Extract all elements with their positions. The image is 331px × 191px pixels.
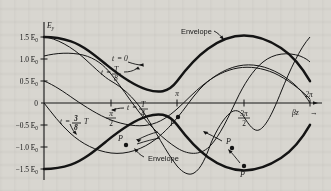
svg-text:=: = <box>117 54 122 63</box>
svg-text:=: = <box>132 103 137 112</box>
point-label-p-bottom: P <box>239 170 245 179</box>
point-label-p-left: P <box>117 134 123 143</box>
svg-text:3: 3 <box>73 114 78 123</box>
svg-text:→: → <box>310 108 318 117</box>
svg-text:2: 2 <box>242 119 246 128</box>
point-label-p-right: P <box>225 137 231 146</box>
y-tick-label-neg1.0: −1.0 E0 <box>16 143 39 153</box>
svg-text:βz: βz <box>291 108 299 117</box>
point-marker-p-left <box>124 143 128 147</box>
standing-wave-figure: 1.5 E0 1.0 E0 0.5 E0 0 −0.5 E0 −1.0 E0 −… <box>0 0 331 191</box>
annotation-envelope-bottom: Envelope <box>148 154 179 163</box>
y-tick-label-0: 0 <box>34 99 38 108</box>
svg-text:4: 4 <box>141 109 145 118</box>
svg-text:8: 8 <box>74 123 78 132</box>
y-tick-label-neg1.5: −1.5 E0 <box>16 165 39 175</box>
annotation-envelope-top: Envelope <box>181 27 212 36</box>
svg-text:0: 0 <box>124 54 128 63</box>
point-marker-p-right <box>230 146 234 150</box>
point-label-p-center: P <box>169 119 175 128</box>
point-marker-p-center <box>176 115 180 119</box>
svg-text:=: = <box>106 68 111 77</box>
point-marker-p-bottom <box>242 164 246 168</box>
svg-text:8: 8 <box>114 74 118 83</box>
x-tick-label-pi: π <box>175 89 179 98</box>
y-tick-label-neg0.5: −0.5 E0 <box>16 121 39 131</box>
svg-text:=: = <box>65 117 70 126</box>
